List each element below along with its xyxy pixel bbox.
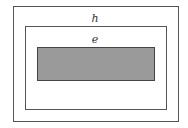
middle-box-label: e — [92, 34, 99, 45]
inner-shaded-box — [37, 47, 155, 81]
outer-box-label: h — [91, 13, 98, 24]
